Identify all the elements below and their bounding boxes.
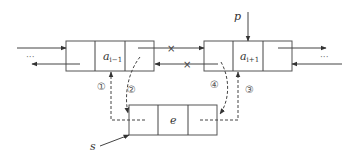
step-3-arrow xyxy=(200,72,238,120)
pointer-s-arrow xyxy=(100,135,129,146)
step-3-label: ③ xyxy=(245,84,254,95)
ellipsis-left: ··· xyxy=(26,52,35,62)
node-right-value: ai+1 xyxy=(240,50,259,64)
step-4-label: ④ xyxy=(210,79,219,90)
node-left-value: ai−1 xyxy=(103,50,122,64)
step-1-label: ① xyxy=(97,81,106,92)
cross-mark-prior: × xyxy=(183,59,191,70)
linked-list-diagram: ai−1 ai+1 e ··· × × ··· p s ① ② ③ ④ xyxy=(0,0,353,158)
step-4-arrow xyxy=(220,62,228,114)
cross-mark-next: × xyxy=(167,43,175,54)
node-right: ai+1 xyxy=(204,41,292,71)
step-2-label: ② xyxy=(127,84,136,95)
node-new-value: e xyxy=(170,114,177,127)
step-1-arrow xyxy=(111,72,145,120)
ellipsis-right: ··· xyxy=(320,52,329,62)
pointer-p-label: p xyxy=(234,10,241,23)
pointer-s-label: s xyxy=(90,140,96,153)
node-left: ai−1 xyxy=(66,41,154,71)
